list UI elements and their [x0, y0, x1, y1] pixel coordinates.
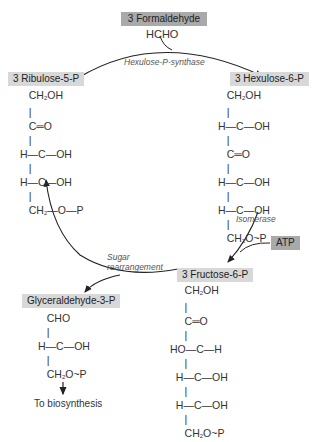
glyceraldehyde-label: Glyceraldehyde-3-P [27, 295, 115, 306]
ribulose-structure: CH2OH | C═O | H—C—OH | H—C—OH | CH2—O—P [20, 88, 83, 220]
enzyme-rearrangement-2: rearrangement [107, 262, 163, 272]
atp-box: ATP [271, 236, 300, 250]
formaldehyde-formula: HCHO [146, 28, 178, 40]
hexulose-label: 3 Hexulose-6-P [235, 73, 304, 84]
fructose-structure: CH2OH | C═O | HO—C—H | H—C—OH | H—C—OH |… [170, 283, 228, 442]
hexulose-box: 3 Hexulose-6-P [230, 72, 309, 86]
biosynthesis-label: To biosynthesis [34, 398, 102, 409]
glyceraldehyde-structure: CHO | H—C—OH | CH2O~P [38, 311, 90, 384]
hexulose-structure: CH2OH | H—C—OH | C═O | H—C—OH | H—C—OH |… [218, 88, 270, 248]
fructose-box: 3 Fructose-6-P [177, 268, 253, 282]
formaldehyde-label: 3 Formaldehyde [128, 13, 200, 24]
ribulose-label: 3 Ribulose-5-P [13, 73, 79, 84]
enzyme-synthase: Hexulose-P-synthase [124, 57, 205, 67]
formaldehyde-box: 3 Formaldehyde [121, 12, 207, 26]
fructose-label: 3 Fructose-6-P [182, 269, 248, 280]
enzyme-isomerase: Isomerase [236, 214, 276, 224]
enzyme-rearrangement-1: Sugar [107, 252, 130, 262]
ribulose-box: 3 Ribulose-5-P [8, 72, 84, 86]
atp-label: ATP [276, 237, 295, 248]
glyceraldehyde-box: Glyceraldehyde-3-P [22, 294, 120, 308]
